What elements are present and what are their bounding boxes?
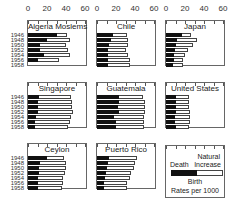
tick-label: 0 bbox=[26, 4, 30, 13]
bar-row bbox=[28, 120, 86, 124]
bar-row bbox=[97, 166, 155, 170]
bar-row bbox=[97, 53, 155, 57]
death-bar bbox=[166, 58, 174, 62]
death-bar bbox=[97, 43, 109, 47]
death-bar bbox=[97, 53, 108, 57]
tick-label: 60 bbox=[219, 4, 228, 13]
tick-label: 20 bbox=[43, 4, 52, 13]
legend: Natural Death Increase Birth Rates per 1… bbox=[165, 145, 225, 198]
death-bar bbox=[97, 161, 108, 165]
bar-row bbox=[28, 115, 86, 119]
death-bar bbox=[97, 33, 113, 37]
panel-chile: Chile bbox=[96, 20, 156, 66]
bars bbox=[28, 156, 86, 191]
tick-label: 40 bbox=[62, 4, 71, 13]
bar-row bbox=[97, 33, 155, 37]
death-bar bbox=[28, 95, 39, 99]
bars bbox=[97, 95, 155, 130]
death-bar bbox=[97, 115, 114, 119]
death-bar bbox=[28, 33, 57, 37]
death-bar bbox=[97, 63, 108, 67]
death-bar bbox=[97, 38, 111, 42]
year-label: 1958 bbox=[0, 125, 24, 130]
bar-row bbox=[28, 166, 86, 170]
bar-row bbox=[28, 38, 86, 42]
bar-row bbox=[166, 95, 224, 99]
death-bar bbox=[28, 100, 38, 104]
tick-mark bbox=[166, 146, 167, 149]
death-bar bbox=[166, 115, 175, 119]
bar-row bbox=[28, 43, 86, 47]
tick-label: 20 bbox=[181, 4, 190, 13]
death-bar bbox=[28, 43, 40, 47]
bars bbox=[97, 156, 155, 191]
death-bar bbox=[28, 48, 40, 52]
bar-row bbox=[166, 53, 224, 57]
tick-label: 0 bbox=[164, 4, 168, 13]
panel-ceylon: Ceylon bbox=[27, 143, 87, 189]
death-bar bbox=[28, 171, 39, 175]
death-bar bbox=[28, 110, 38, 114]
year-label: 1958 bbox=[0, 186, 24, 191]
bar-row bbox=[97, 105, 155, 109]
bar-row bbox=[166, 115, 224, 119]
death-bar bbox=[166, 38, 177, 42]
bar-row bbox=[166, 120, 224, 124]
bar-row bbox=[28, 171, 86, 175]
panel-title: Ceylon bbox=[28, 145, 86, 154]
bar-row bbox=[28, 63, 86, 67]
bar-row bbox=[166, 33, 224, 37]
bar-row bbox=[28, 105, 86, 109]
death-bar bbox=[97, 176, 105, 180]
death-bar bbox=[97, 186, 104, 190]
bars bbox=[166, 33, 224, 68]
death-bar bbox=[97, 48, 108, 52]
death-bar bbox=[97, 100, 119, 104]
panel-guatemala: Guatemala bbox=[96, 82, 156, 128]
bar-row bbox=[166, 43, 224, 47]
bar-row bbox=[166, 125, 224, 129]
panel-title: Puerto Rico bbox=[97, 145, 155, 154]
bar-row bbox=[166, 48, 224, 52]
panel-japan: Japan bbox=[165, 20, 225, 66]
bar-row bbox=[97, 58, 155, 62]
tick-marks bbox=[166, 146, 224, 149]
panel-title: Chile bbox=[97, 22, 155, 31]
death-bar bbox=[28, 58, 38, 62]
panel-title: Singapore bbox=[28, 84, 86, 93]
death-bar bbox=[28, 120, 35, 124]
legend-death-bar bbox=[171, 170, 197, 176]
bar-row bbox=[166, 38, 224, 42]
bar-row bbox=[28, 53, 86, 57]
death-bar bbox=[166, 43, 176, 47]
legend-natural-line1: Natural bbox=[197, 153, 220, 160]
death-bar bbox=[166, 33, 182, 37]
death-bar bbox=[28, 186, 38, 190]
panel-singapore: Singapore bbox=[27, 82, 87, 128]
bar-row bbox=[28, 48, 86, 52]
bar-row bbox=[97, 63, 155, 67]
bar-row bbox=[28, 58, 86, 62]
bar-row bbox=[28, 95, 86, 99]
bar-row bbox=[97, 100, 155, 104]
tick-mark bbox=[214, 146, 215, 149]
bar-row bbox=[97, 171, 155, 175]
death-bar bbox=[28, 105, 38, 109]
bar-row bbox=[97, 95, 155, 99]
bar-row bbox=[97, 43, 155, 47]
death-bar bbox=[97, 156, 109, 160]
death-bar bbox=[166, 105, 176, 109]
bar-row bbox=[97, 38, 155, 42]
bar-row bbox=[166, 100, 224, 104]
bar-row bbox=[28, 110, 86, 114]
death-bar bbox=[97, 120, 116, 124]
legend-natural-line2: Increase bbox=[194, 161, 221, 168]
bar-row bbox=[97, 115, 155, 119]
bar-row bbox=[97, 48, 155, 52]
death-bar bbox=[28, 156, 47, 160]
tick-mark bbox=[176, 146, 177, 149]
bar-row bbox=[28, 100, 86, 104]
tick-label: 40 bbox=[200, 4, 209, 13]
bar-row bbox=[28, 125, 86, 129]
bar-row bbox=[97, 156, 155, 160]
